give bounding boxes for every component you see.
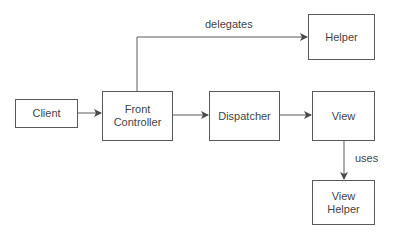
arrow-front-controller-to-helper (137, 37, 307, 91)
node-view-helper-label: View Helper (327, 190, 359, 216)
node-dispatcher-label: Dispatcher (218, 110, 271, 123)
node-view: View (312, 91, 375, 141)
node-view-label: View (332, 110, 356, 123)
node-client-label: Client (32, 107, 60, 120)
edge-label-uses: uses (355, 152, 378, 164)
node-front-controller-label: Front Controller (114, 103, 162, 129)
node-helper-label: Helper (325, 31, 357, 44)
node-view-helper: View Helper (312, 180, 375, 225)
node-front-controller: Front Controller (102, 91, 173, 141)
node-client: Client (15, 99, 78, 128)
node-helper: Helper (308, 14, 375, 60)
node-dispatcher: Dispatcher (209, 91, 280, 141)
edge-label-delegates: delegates (205, 18, 253, 30)
